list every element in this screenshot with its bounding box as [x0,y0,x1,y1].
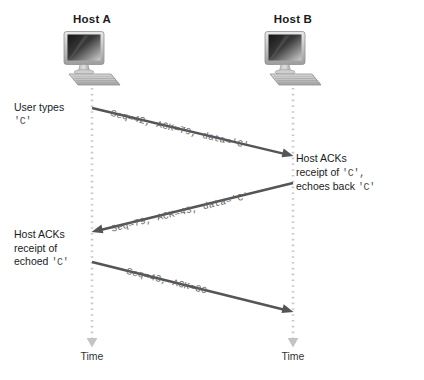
annotation-line: Host ACKs [296,152,375,166]
time-label-host-b: Time [263,350,323,362]
annotation-line: receipt of 'C', [296,166,375,181]
annotation-line: echoes back 'C' [296,180,375,195]
lifeline-host-b [288,88,299,348]
annotation-line: 'C' [14,115,64,129]
computer-icon [259,30,327,88]
annotation-text: echoed [14,255,51,267]
annotation-host-b-ack: Host ACKs receipt of 'C', echoes back 'C… [296,152,375,195]
annotation-line: Host ACKs [14,228,68,242]
host-a-title: Host A [46,13,138,25]
annotation-mono: 'C' [358,182,375,193]
annotation-mono: 'C', [342,168,365,179]
tcp-sequence-diagram: Host A Host B [0,0,424,380]
annotation-host-a-ack: Host ACKs receipt of echoed 'C' [14,228,68,270]
host-b-title: Host B [247,13,339,25]
annotation-user-types: User types 'C' [14,101,64,128]
annotation-text: echoes back [296,180,358,192]
annotation-line: User types [14,101,64,115]
annotation-mono: 'C' [51,257,68,268]
computer-icon [58,30,126,88]
annotation-line: receipt of [14,242,68,256]
lifeline-host-a [87,88,98,348]
time-label-host-a: Time [62,350,122,362]
annotation-line: echoed 'C' [14,255,68,270]
annotation-text: receipt of [296,166,342,178]
